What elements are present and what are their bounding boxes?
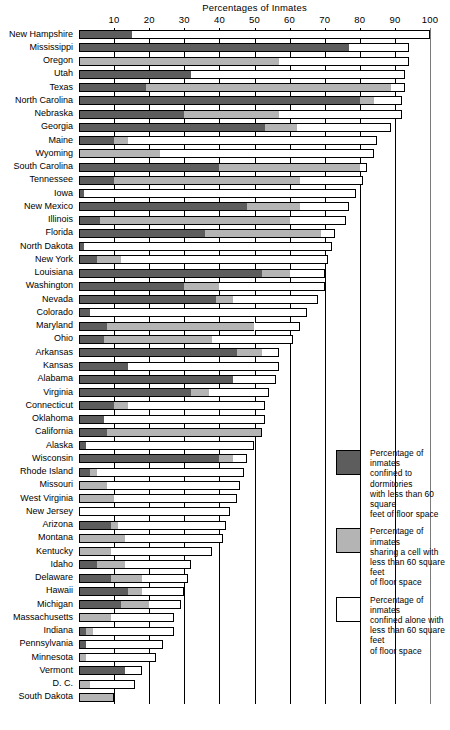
bar-segment-alone [125,560,192,569]
bar-row[interactable] [79,83,430,92]
y-label-wyoming: Wyoming [36,149,73,158]
bar-segment-shared [265,123,297,132]
bar-segment-dorm [79,468,90,477]
bar-segment-shared [79,613,111,622]
bar-row[interactable] [79,163,430,172]
chart-legend: Percentage of inmatesconfined to dormito… [336,448,450,663]
bar-segment-alone [321,229,335,238]
bar-segment-dorm [79,454,219,463]
bar-segment-alone [374,96,402,105]
bar-segment-shared [114,401,128,410]
bar-row[interactable] [79,282,430,291]
bar-segment-alone [142,574,188,583]
bar-row[interactable] [79,415,430,424]
bar-segment-alone [219,282,324,291]
y-label-new-mexico: New Mexico [24,202,73,211]
bar-row[interactable] [79,428,430,437]
bar-segment-shared [262,269,290,278]
bar-row[interactable] [79,322,430,331]
bar-segment-dorm [79,362,128,371]
bar-segment-dorm [79,428,107,437]
bar-row[interactable] [79,666,430,675]
y-label-georgia: Georgia [41,122,73,131]
bar-segment-shared [90,468,97,477]
y-label-nebraska: Nebraska [34,109,73,118]
y-label-rhode-island: Rhode Island [20,467,73,476]
bar-row[interactable] [79,401,430,410]
y-label-oklahoma: Oklahoma [32,414,73,423]
bar-row[interactable] [79,216,430,225]
y-label-tennessee: Tennessee [29,175,73,184]
bar-segment-shared [205,229,321,238]
bar-row[interactable] [79,43,430,52]
y-label-kentucky: Kentucky [36,547,73,556]
bar-segment-alone [142,587,184,596]
bar-row[interactable] [79,680,430,689]
bar-segment-dorm [79,375,233,384]
y-label-maryland: Maryland [36,321,73,330]
bar-row[interactable] [79,242,430,251]
bar-segment-alone [111,547,213,556]
bar-row[interactable] [79,308,430,317]
bar-segment-dorm [79,308,90,317]
chart-title: Percentages of Inmates [79,2,430,13]
bar-segment-alone [121,255,328,264]
bar-segment-shared [79,149,160,158]
y-label-maine: Maine [48,136,73,145]
bar-row[interactable] [79,110,430,119]
bar-row[interactable] [79,229,430,238]
bar-row[interactable] [79,388,430,397]
bar-row[interactable] [79,57,430,66]
y-label-d-c: D. C. [52,679,73,688]
bar-row[interactable] [79,149,430,158]
bar-segment-shared [79,680,90,689]
x-tick-label-90: 90 [389,14,400,25]
bar-segment-shared [111,574,143,583]
y-label-iowa: Iowa [54,189,73,198]
y-axis-category-labels: New HampshireMississippiOregonUtahTexasN… [0,28,76,704]
bar-row[interactable] [79,375,430,384]
y-label-washington: Washington [26,281,73,290]
bar-row[interactable] [79,123,430,132]
bar-segment-alone [212,335,293,344]
bar-segment-shared [121,600,149,609]
bar-segment-dorm [79,401,114,410]
bar-row[interactable] [79,202,430,211]
y-label-delaware: Delaware [35,573,73,582]
bar-segment-shared [79,534,125,543]
bar-segment-shared [219,454,233,463]
bar-segment-alone [262,348,280,357]
y-label-pennsylvania: Pennsylvania [19,639,73,648]
bar-row[interactable] [79,693,430,702]
y-label-idaho: Idaho [50,560,73,569]
y-label-utah: Utah [54,69,73,78]
x-tick-label-70: 70 [319,14,330,25]
bar-row[interactable] [79,362,430,371]
y-label-virginia: Virginia [43,388,73,397]
bar-segment-shared [128,587,142,596]
bar-segment-dorm [79,229,205,238]
bar-row[interactable] [79,335,430,344]
legend-item-alone[interactable]: Percentage of inmatesconfined alone with… [336,595,450,656]
y-label-texas: Texas [49,83,73,92]
bar-row[interactable] [79,348,430,357]
y-label-indiana: Indiana [43,626,73,635]
bar-segment-alone [360,163,367,172]
bar-segment-shared [79,653,86,662]
bar-row[interactable] [79,255,430,264]
bar-segment-alone [290,216,346,225]
bar-row[interactable] [79,96,430,105]
y-label-montana: Montana [38,533,73,542]
bar-segment-alone [125,666,143,675]
bar-row[interactable] [79,136,430,145]
bar-row[interactable] [79,70,430,79]
legend-item-dormitories[interactable]: Percentage of inmatesconfined to dormito… [336,448,450,519]
bar-row[interactable] [79,295,430,304]
bar-row[interactable] [79,30,430,39]
bar-row[interactable] [79,176,430,185]
bar-row[interactable] [79,269,430,278]
y-label-louisiana: Louisiana [34,268,73,277]
bar-segment-dorm [79,521,111,530]
bar-row[interactable] [79,189,430,198]
legend-item-shared-cell[interactable]: Percentage of inmatessharing a cell with… [336,526,450,587]
